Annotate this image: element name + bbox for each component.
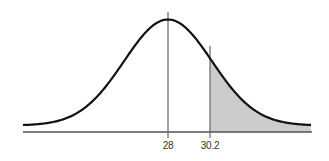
normal-curve-chart xyxy=(0,0,329,161)
tick-label-cutoff: 30.2 xyxy=(201,140,220,151)
normal-curve xyxy=(23,20,311,126)
tick-label-mean: 28 xyxy=(163,140,174,151)
shaded-tail-region xyxy=(210,58,311,132)
